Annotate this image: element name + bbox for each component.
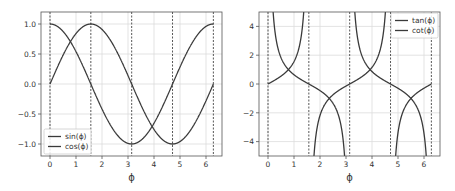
y-tick-label: −4 xyxy=(243,137,254,146)
x-tick-label: 6 xyxy=(204,160,209,169)
y-tick-label: 1.0 xyxy=(24,20,36,29)
y-tick-label: 0.5 xyxy=(24,50,36,59)
y-tick-label: −0.5 xyxy=(18,110,36,119)
x-tick-label: 2 xyxy=(318,160,323,169)
legend-label: cos(ϕ) xyxy=(65,142,88,151)
y-tick-label: −1.0 xyxy=(18,140,36,149)
x-tick-label: 5 xyxy=(178,160,183,169)
y-tick-label: 4 xyxy=(249,22,254,31)
x-tick-label: 1 xyxy=(74,160,79,169)
x-axis-label: ϕ xyxy=(128,172,135,183)
x-tick-label: 5 xyxy=(396,160,401,169)
trig-sin-cos-plot: 01234561.00.50.0−0.5−1.0ϕsin(ϕ)cos(ϕ) xyxy=(18,12,222,183)
x-tick-label: 2 xyxy=(100,160,105,169)
legend-label: tan(ϕ) xyxy=(412,16,435,25)
x-tick-label: 4 xyxy=(152,160,157,169)
x-tick-label: 3 xyxy=(344,160,349,169)
legend-label: cot(ϕ) xyxy=(412,26,435,35)
trig-tan-cot-plot: 0123456420−2−4ϕtan(ϕ)cot(ϕ) xyxy=(243,0,440,191)
x-tick-label: 1 xyxy=(292,160,297,169)
y-tick-label: 0 xyxy=(249,80,254,89)
figure: 01234561.00.50.0−0.5−1.0ϕsin(ϕ)cos(ϕ) 01… xyxy=(0,0,455,191)
legend: sin(ϕ)cos(ϕ) xyxy=(44,129,91,154)
y-tick-label: 2 xyxy=(249,51,254,60)
x-tick-label: 0 xyxy=(48,160,53,169)
y-tick-label: 0.0 xyxy=(24,80,36,89)
y-tick-label: −2 xyxy=(243,109,254,118)
x-tick-label: 3 xyxy=(126,160,131,169)
x-axis-label: ϕ xyxy=(346,172,353,183)
x-tick-label: 4 xyxy=(370,160,375,169)
x-tick-label: 0 xyxy=(266,160,271,169)
legend-label: sin(ϕ) xyxy=(65,132,87,141)
legend: tan(ϕ)cot(ϕ) xyxy=(391,13,438,38)
x-tick-label: 6 xyxy=(422,160,427,169)
